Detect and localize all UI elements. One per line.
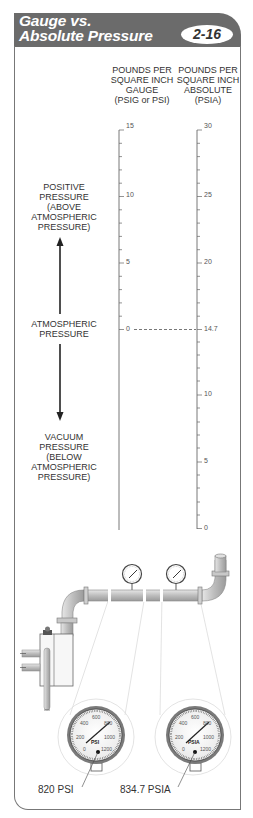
- dial-label: 1000: [104, 733, 115, 741]
- dial-label: 200: [175, 733, 183, 741]
- inline-gauge-left-icon: [123, 565, 142, 591]
- psi-unit-label: PSI: [91, 738, 99, 746]
- pipe-system: [57, 554, 229, 636]
- vacuum-arrow-icon: [57, 344, 64, 421]
- dial-label: 1200: [200, 745, 211, 753]
- psig-scale: [119, 130, 124, 530]
- diagram-graphics: [0, 0, 253, 818]
- psia-reading-label: 834.7 PSIA: [120, 784, 171, 795]
- dial-label: 1000: [203, 733, 214, 741]
- dial-label: 200: [76, 733, 84, 741]
- dial-label: 800: [203, 719, 211, 727]
- psia-scale: [197, 130, 202, 529]
- psi-reading-label: 820 PSI: [38, 784, 74, 795]
- dial-label: 800: [104, 719, 112, 727]
- inline-gauge-right-icon: [167, 565, 186, 591]
- dial-label: 600: [191, 713, 199, 721]
- dial-label: 400: [179, 719, 187, 727]
- psia-unit-label: PSIA: [188, 738, 200, 746]
- dial-label: 1200: [101, 745, 112, 753]
- compressor-unit-icon: [20, 627, 73, 711]
- dial-label: 600: [92, 713, 100, 721]
- dial-label: 400: [80, 719, 88, 727]
- dial-label: 0: [182, 745, 185, 753]
- dial-label: 0: [83, 745, 86, 753]
- positive-arrow-icon: [57, 237, 64, 314]
